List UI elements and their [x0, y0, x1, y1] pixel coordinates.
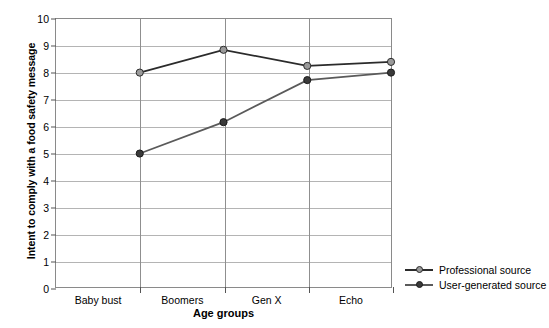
data-point-marker: [387, 69, 394, 76]
data-point-marker: [136, 150, 143, 157]
legend-item-label: Professional source: [434, 264, 531, 276]
x-axis-tick-mark: [225, 287, 226, 293]
chart-legend: Professional sourceUser-generated source: [404, 262, 549, 292]
legend-marker-icon: [404, 264, 434, 276]
x-axis-tick-mark: [393, 287, 394, 293]
y-axis-tick-label: 3: [43, 202, 49, 214]
x-axis-title: Age groups: [55, 307, 392, 319]
data-point-marker: [304, 62, 311, 69]
data-point-marker: [304, 77, 311, 84]
series-line: [140, 73, 391, 154]
x-axis-tick-mark: [140, 287, 141, 293]
y-axis-tick-label: 6: [43, 121, 49, 133]
plot-area: 012345678910 Baby bustBoomersGen XEcho: [55, 18, 392, 288]
legend-marker-icon: [404, 279, 434, 291]
x-axis-tick-mark: [309, 287, 310, 293]
y-axis-tick-label: 9: [43, 40, 49, 52]
x-axis-tick-label: Gen X: [252, 294, 282, 306]
data-point-marker: [220, 46, 227, 53]
y-axis-tick-label: 8: [43, 67, 49, 79]
y-axis-tick-label: 0: [43, 283, 49, 295]
y-axis-title: Intent to comply with a food safety mess…: [25, 17, 37, 285]
x-axis-tick-label: Baby bust: [75, 294, 122, 306]
x-axis-tick-label: Boomers: [161, 294, 203, 306]
data-point-marker: [220, 119, 227, 126]
series-layer: [56, 19, 391, 287]
legend-item[interactable]: User-generated source: [404, 277, 549, 292]
y-axis-tick-label: 7: [43, 94, 49, 106]
series-line: [140, 50, 391, 73]
y-axis-tick-label: 10: [37, 13, 49, 25]
data-point-marker: [387, 58, 394, 65]
y-axis-tick-label: 1: [43, 256, 49, 268]
y-axis-tick-mark: [51, 289, 56, 290]
data-point-marker: [136, 69, 143, 76]
y-axis-tick-label: 4: [43, 175, 49, 187]
legend-item-label: User-generated source: [434, 279, 546, 291]
line-chart: Intent to comply with a food safety mess…: [0, 0, 549, 328]
x-axis-tick-label: Echo: [339, 294, 363, 306]
legend-item[interactable]: Professional source: [404, 262, 549, 277]
y-axis-tick-label: 5: [43, 148, 49, 160]
y-axis-tick-label: 2: [43, 229, 49, 241]
